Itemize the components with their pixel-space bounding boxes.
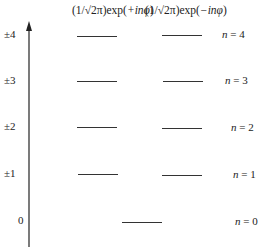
n-value: = 1 — [239, 168, 256, 180]
n-label-1: n = 1 — [233, 168, 256, 180]
m-label-4: ±4 — [4, 28, 24, 40]
m-label-0: 0 — [18, 214, 38, 226]
n-label-2: n = 2 — [231, 121, 254, 133]
n-value: = 0 — [241, 215, 258, 227]
m-label-1: ±1 — [4, 167, 24, 179]
m-label-3: ±3 — [4, 74, 24, 86]
n-value: = 4 — [228, 28, 245, 40]
n-label-3: n = 3 — [225, 74, 248, 86]
level-n2-plus — [77, 127, 117, 128]
n-value: = 2 — [237, 121, 254, 133]
level-n4-minus — [162, 35, 202, 36]
level-n4-plus — [77, 36, 117, 37]
m-label-2: ±2 — [4, 120, 24, 132]
n-value: = 3 — [231, 74, 248, 86]
level-n1-minus — [162, 175, 202, 176]
level-n0 — [122, 222, 162, 223]
n-label-0: n = 0 — [235, 215, 258, 227]
arrow-up-icon — [26, 21, 32, 31]
level-n1-plus — [78, 174, 118, 175]
level-n3-minus — [163, 81, 203, 82]
level-n3-plus — [77, 81, 117, 82]
n-label-4: n = 4 — [222, 28, 245, 40]
level-n2-minus — [162, 128, 202, 129]
